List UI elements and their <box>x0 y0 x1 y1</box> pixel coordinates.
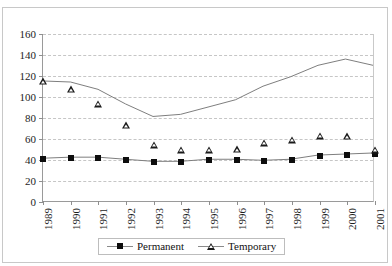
square-marker-icon <box>261 158 267 164</box>
y-axis-tick-label: 140 <box>20 50 37 61</box>
y-axis-tick-label: 100 <box>20 92 37 103</box>
square-marker-icon <box>123 157 129 163</box>
x-axis-tick <box>320 201 321 205</box>
cut-off-caption-remnant <box>28 0 328 4</box>
x-axis-tick-label: 1998 <box>292 208 303 230</box>
y-axis-tick-label: 160 <box>20 29 37 40</box>
legend-line-permanent <box>107 242 133 250</box>
series-line-temporary <box>43 59 373 116</box>
y-axis-tick-label: 120 <box>20 71 37 82</box>
x-axis-tick <box>98 201 99 205</box>
x-axis-tick <box>375 201 376 205</box>
square-marker-icon <box>289 157 295 163</box>
square-marker-icon <box>317 153 323 159</box>
y-axis-tick-label: 40 <box>25 155 36 166</box>
x-axis-tick <box>43 201 44 205</box>
legend-item-permanent: Permanent <box>107 241 184 252</box>
chart-figure: 020406080100120140160 198919901991199219… <box>0 0 392 266</box>
triangle-marker-icon <box>288 137 296 144</box>
legend-label-temporary: Temporary <box>228 241 276 252</box>
square-marker-icon <box>151 159 157 165</box>
x-axis-tick-label: 1994 <box>181 208 192 230</box>
square-marker-icon <box>206 157 212 163</box>
square-marker-icon <box>117 243 123 249</box>
figure-border: 020406080100120140160 198919901991199219… <box>2 7 388 263</box>
triangle-marker-icon <box>205 146 213 153</box>
x-axis-tick-label: 1996 <box>236 208 247 230</box>
triangle-marker-icon <box>122 122 130 129</box>
triangle-marker-icon <box>67 86 75 93</box>
triangle-marker-icon <box>39 78 47 85</box>
x-axis-tick-label: 1992 <box>126 208 137 230</box>
square-marker-icon <box>178 159 184 165</box>
plot-area: 020406080100120140160 198919901991199219… <box>42 34 374 202</box>
x-axis-tick-label: 1989 <box>43 208 54 230</box>
legend-item-temporary: Temporary <box>198 241 276 252</box>
x-axis-tick <box>71 201 72 205</box>
triangle-marker-icon <box>316 132 324 139</box>
y-axis-tick-label: 80 <box>25 113 36 124</box>
x-axis-tick-label: 1991 <box>98 208 109 230</box>
triangle-marker-icon <box>371 146 379 153</box>
x-axis-tick <box>347 201 348 205</box>
x-axis-tick <box>237 201 238 205</box>
square-marker-icon <box>344 152 350 158</box>
legend-label-permanent: Permanent <box>137 241 184 252</box>
chart-legend: Permanent Temporary <box>98 238 285 255</box>
x-axis-tick-label: 1995 <box>209 208 220 230</box>
triangle-marker-icon <box>260 139 268 146</box>
square-marker-icon <box>95 155 101 161</box>
x-axis-tick <box>209 201 210 205</box>
x-axis-tick <box>292 201 293 205</box>
square-marker-icon <box>68 155 74 161</box>
series-lines <box>43 34 373 201</box>
legend-line-temporary <box>198 242 224 250</box>
x-axis-tick <box>126 201 127 205</box>
x-axis-tick-label: 1990 <box>70 208 81 230</box>
y-axis-tick-label: 0 <box>31 197 37 208</box>
x-axis-tick <box>154 201 155 205</box>
triangle-marker-icon <box>94 100 102 107</box>
triangle-marker-icon <box>207 243 215 250</box>
square-marker-icon <box>234 157 240 163</box>
x-axis-tick-label: 1999 <box>319 208 330 230</box>
x-axis-tick-label: 1993 <box>153 208 164 230</box>
triangle-marker-icon <box>150 141 158 148</box>
triangle-marker-icon <box>177 146 185 153</box>
x-axis-tick <box>264 201 265 205</box>
x-axis-tick-label: 2001 <box>375 208 386 230</box>
triangle-marker-icon <box>343 133 351 140</box>
x-axis-tick-label: 2000 <box>347 208 358 230</box>
triangle-marker-icon <box>233 146 241 153</box>
x-axis-tick-label: 1997 <box>264 208 275 230</box>
square-marker-icon <box>40 156 46 162</box>
x-axis-tick <box>181 201 182 205</box>
y-axis-tick-label: 60 <box>25 134 36 145</box>
y-axis-tick-label: 20 <box>25 176 36 187</box>
